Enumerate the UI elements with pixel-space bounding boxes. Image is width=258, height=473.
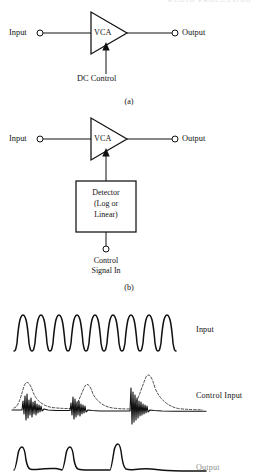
input-sine-path xyxy=(14,315,176,351)
panel-a-output-label: Output xyxy=(182,28,205,38)
panel-b-vca-label: VCA xyxy=(94,134,112,143)
panel-b-output-lead xyxy=(127,136,178,142)
panel-a-vca-label: VCA xyxy=(94,28,112,37)
panel-a-output-lead xyxy=(127,30,178,36)
panel-b-input-lead xyxy=(37,136,91,142)
panel-a-control-label: DC Control xyxy=(77,74,116,84)
detector-line-1: Detector xyxy=(76,188,136,199)
waveform-input-label: Input xyxy=(196,325,214,334)
panel-a-diagram xyxy=(0,0,258,108)
detector-line-3: Linear) xyxy=(76,210,136,221)
detector-line-2: (Log or xyxy=(76,199,136,210)
output-burst-path xyxy=(14,444,206,471)
panel-b-caption: (b) xyxy=(0,283,258,292)
waveform-input-plot xyxy=(0,303,258,358)
control-transient-path xyxy=(12,388,206,424)
control-signal-line-1: Control xyxy=(76,256,136,267)
panel-b-input-label: Input xyxy=(9,134,27,144)
waveform-control-input-label: Control Input xyxy=(196,391,242,400)
panel-b-control-input-lead xyxy=(103,232,109,252)
panel-a-input-lead xyxy=(37,30,91,36)
panel-b-output-label: Output xyxy=(182,134,205,144)
panel-a-caption: (a) xyxy=(0,97,258,106)
waveform-output-label: Output xyxy=(196,463,220,472)
panel-a-input-label: Input xyxy=(9,28,27,38)
figure-page: AUDIO PROCESSING Input Outp xyxy=(0,0,258,473)
control-signal-line-2: Signal In xyxy=(76,266,136,277)
